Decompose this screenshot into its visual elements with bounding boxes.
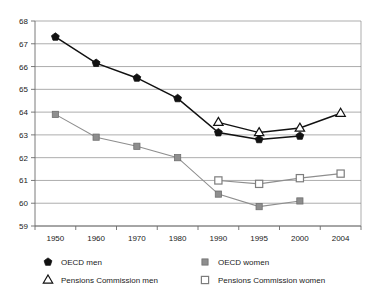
series-line [218,174,340,184]
legend-item-label: OECD men [61,258,102,267]
y-axis-tick-label: 64 [19,108,28,117]
x-tick-labels: 19501960197019801990199520002004 [46,234,350,243]
y-axis-tick-label: 65 [19,85,28,94]
y-axis-tick-label: 68 [19,17,28,26]
data-point-marker-0-5 [255,135,263,142]
series-markers-oecd-women [52,111,303,209]
series-markers-oecd-men [51,33,303,143]
x-axis-tick-label: 1970 [128,234,146,243]
data-point-marker-3-2 [296,175,303,182]
y-axis-tick-label: 61 [19,176,28,185]
x-axis-tick-label: 2004 [332,234,350,243]
series-oecd-men [55,37,300,140]
data-point-marker-0-0 [51,33,59,40]
data-point-marker-1-3 [175,155,181,161]
chart-legend: OECD menOECD womenPensions Commission me… [43,258,325,285]
legend-item[interactable]: OECD women [202,258,269,267]
data-point-marker-1-6 [297,198,303,204]
chart-container: 68676665646362616059 1950196019701980199… [0,0,380,296]
x-axis-tick-label: 1990 [209,234,227,243]
x-axis-tick-label: 1960 [87,234,105,243]
series-line [55,37,300,140]
data-point-marker-0-6 [296,132,304,139]
data-point-marker-3-3 [337,170,344,177]
data-point-marker-1-4 [215,191,221,197]
y-axis-tick-label: 62 [19,154,28,163]
y-axis-tick-label: 59 [19,222,28,231]
data-point-marker-0-2 [133,74,141,81]
legend-item[interactable]: Pensions Commission women [201,276,325,285]
data-point-marker-2-0 [214,117,223,125]
data-point-marker-legend-1 [202,259,208,265]
legend-item-label: OECD women [218,258,269,267]
data-point-marker-legend-0 [44,258,52,265]
data-point-marker-1-0 [52,111,58,117]
series-pensions-commission-men [218,113,340,132]
legend-item-label: Pensions Commission men [61,276,158,285]
y-axis-tick-label: 66 [19,63,28,72]
legend-item[interactable]: Pensions Commission men [43,275,158,285]
data-point-marker-0-1 [92,59,100,66]
data-point-marker-1-5 [256,204,262,210]
x-axis-tick-label: 1995 [250,234,268,243]
y-tick-labels: 68676665646362616059 [19,17,28,231]
data-point-marker-legend-2 [43,275,52,283]
legend-item-label: Pensions Commission women [218,276,325,285]
x-axis-tick-label: 1980 [169,234,187,243]
data-point-marker-3-1 [256,180,263,187]
legend-item[interactable]: OECD men [44,258,102,267]
y-axis-tick-label: 63 [19,131,28,140]
series-group [51,33,345,210]
data-point-marker-0-3 [174,94,182,101]
x-axis-tick-label: 1950 [46,234,64,243]
y-axis-group [31,21,35,226]
line-chart: 68676665646362616059 1950196019701980199… [0,0,380,296]
data-point-marker-1-1 [93,134,99,140]
series-markers-pensions-commission-women [215,170,344,187]
data-point-marker-1-2 [134,143,140,149]
data-point-marker-legend-3 [201,276,208,283]
series-pensions-commission-women [218,174,340,184]
series-line [218,113,340,132]
y-axis-tick-label: 60 [19,199,28,208]
x-axis-tick-label: 2000 [291,234,309,243]
data-point-marker-3-0 [215,177,222,184]
x-axis-group [35,226,361,230]
y-axis-tick-label: 67 [19,40,28,49]
